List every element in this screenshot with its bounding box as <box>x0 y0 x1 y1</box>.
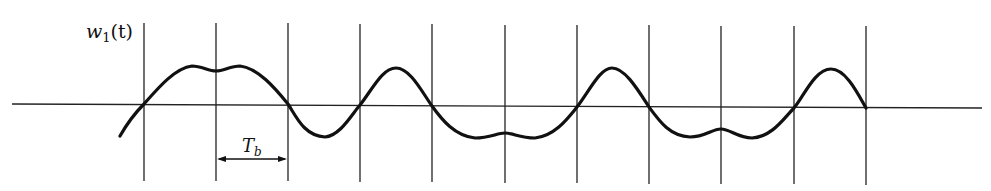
waveform-curve <box>120 66 866 138</box>
bit-boundaries <box>144 23 866 185</box>
bit-period-dimension: Tb <box>217 135 287 162</box>
arrow-left-icon <box>217 156 226 162</box>
bit-period-label: Tb <box>242 135 262 159</box>
signal-label: w1(t) <box>86 20 133 45</box>
arrow-right-icon <box>278 156 287 162</box>
time-axis <box>12 104 982 108</box>
waveform-diagram: w1(t) Tb <box>0 0 991 191</box>
